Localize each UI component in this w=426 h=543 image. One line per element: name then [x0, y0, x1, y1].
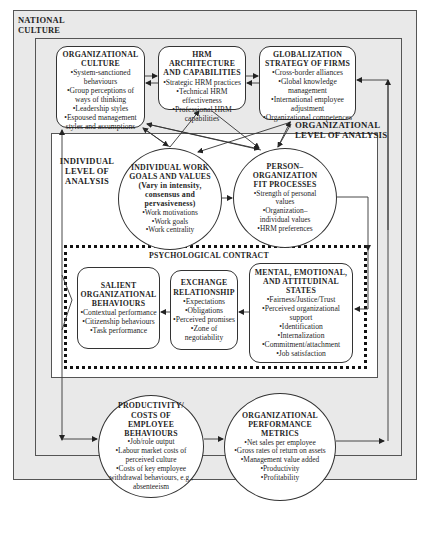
- individual-goals-item: •Work centrality: [146, 226, 195, 235]
- individual-level-label: INDIVIDUAL LEVEL OF ANALYSIS: [58, 156, 116, 186]
- globalization-item: •Global knowledge management: [262, 77, 353, 95]
- individual-goals-subtitle: (Vary in intensity, consensus and pervas…: [127, 181, 213, 209]
- org-culture-item: •Espoused management styles and assumpti…: [59, 113, 142, 131]
- mental-states-item: •Internalization: [252, 331, 350, 340]
- globalization-box: GLOBALIZATION STRATEGY OF FIRMS •Cross-b…: [259, 46, 356, 120]
- org-culture-item: •Group perceptions of ways of thinking: [59, 86, 142, 104]
- exchange-item: •Zone of negotiability: [173, 324, 235, 342]
- mental-states-item: •Commitment/attachment: [252, 340, 350, 349]
- productivity-circle: PRODUCTIVITY/ COSTS OF EMPLOYEE BEHAVIOU…: [98, 395, 204, 498]
- psychological-contract-label: PSYCHOLOGICAL CONTRACT: [149, 251, 269, 261]
- productivity-item: •Labour market costs of perceived cultur…: [107, 447, 195, 465]
- salient-behaviours-box: SALIENT ORGANIZATIONAL BEHAVIOURS •Conte…: [77, 267, 160, 349]
- mental-states-item: •Identification: [252, 322, 350, 331]
- exchange-relationship-box: EXCHANGE RELATIONSHIP •Expectations •Obl…: [170, 270, 238, 350]
- hrm-item: •Technical HRM effectiveness: [161, 87, 243, 105]
- salient-behaviours-item: •Contextual performance: [80, 308, 157, 317]
- globalization-item: •International employee adjustment: [262, 95, 353, 113]
- exchange-relationship-title: EXCHANGE RELATIONSHIP: [173, 278, 235, 296]
- person-org-fit-circle: PERSON– ORGANIZATION FIT PROCESSES •Stre…: [233, 148, 337, 248]
- salient-behaviours-item: •Citizenship behaviours: [80, 317, 157, 326]
- performance-item: •Profitability: [261, 474, 299, 483]
- person-org-fit-item: •HRM preferences: [257, 225, 312, 234]
- performance-metrics-circle: ORGANIZATIONAL PERFORMANCE METRICS •Net …: [224, 393, 336, 501]
- productivity-title: PRODUCTIVITY/ COSTS OF EMPLOYEE BEHAVIOU…: [107, 401, 195, 438]
- performance-metrics-title: ORGANIZATIONAL PERFORMANCE METRICS: [233, 411, 327, 439]
- salient-behaviours-title: SALIENT ORGANIZATIONAL BEHAVIOURS: [80, 281, 157, 309]
- org-culture-item: •System-sanctioned behaviours: [59, 68, 142, 86]
- exchange-item: •Perceived promises: [173, 315, 235, 324]
- globalization-item: •Cross-border alliances: [262, 68, 353, 77]
- hrm-architecture-box: HRM ARCHITECTURE AND CAPABILITIES •Strat…: [158, 46, 246, 110]
- organizational-level-label: ORGANIZATIONAL LEVEL OF ANALYSIS: [295, 120, 387, 140]
- org-culture-title: ORGANIZATIONAL CULTURE: [59, 50, 142, 68]
- salient-behaviours-item: •Task performance: [80, 326, 157, 335]
- individual-goals-title: INDIVIDUAL WORK GOALS AND VALUES: [127, 163, 213, 181]
- mental-states-item: •Perceived organizational support: [252, 304, 350, 322]
- mental-states-item: •Fairness/Justice/Trust: [252, 295, 350, 304]
- exchange-item: •Expectations: [173, 297, 235, 306]
- individual-goals-circle: INDIVIDUAL WORK GOALS AND VALUES (Vary i…: [118, 148, 222, 250]
- hrm-item: •Professional HRM capabilities: [161, 105, 243, 123]
- exchange-item: •Obligations: [173, 306, 235, 315]
- hrm-architecture-title: HRM ARCHITECTURE AND CAPABILITIES: [161, 50, 243, 78]
- mental-states-box: MENTAL, EMOTIONAL, AND ATTITUDINAL STATE…: [249, 263, 353, 363]
- org-culture-box: ORGANIZATIONAL CULTURE •System-sanctione…: [56, 46, 145, 128]
- person-org-fit-item: •Organization– individual values: [248, 207, 322, 225]
- hrm-item: •Strategic HRM practices: [161, 78, 243, 87]
- productivity-item: •Costs of key employee withdrawal behavi…: [107, 465, 195, 492]
- globalization-item: •Organizational competences: [262, 113, 353, 122]
- org-culture-item: •Leadership styles: [59, 104, 142, 113]
- mental-states-title: MENTAL, EMOTIONAL, AND ATTITUDINAL STATE…: [252, 268, 350, 296]
- globalization-title: GLOBALIZATION STRATEGY OF FIRMS: [262, 50, 353, 68]
- person-org-fit-title: PERSON– ORGANIZATION FIT PROCESSES: [248, 162, 322, 190]
- person-org-fit-item: •Strength of personal values: [248, 190, 322, 208]
- national-culture-label: NATIONAL CULTURE: [18, 15, 65, 35]
- mental-states-item: •Job satisfaction: [252, 349, 350, 358]
